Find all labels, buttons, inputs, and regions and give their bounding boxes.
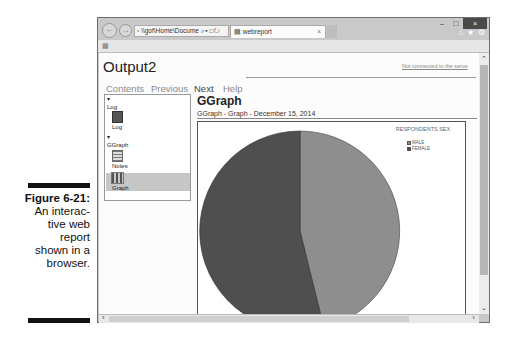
back-arrow-icon: ← xyxy=(106,25,114,34)
tree-item-notes[interactable]: Notes xyxy=(112,163,128,169)
tree-group-log[interactable]: Log xyxy=(107,104,117,110)
dropdown-icon[interactable]: ▾ xyxy=(205,27,208,34)
legend-title: RESPONDENTS SEX xyxy=(393,126,453,132)
tab-close-icon[interactable]: × xyxy=(317,26,321,38)
legend-swatch xyxy=(407,141,411,145)
log-icon[interactable] xyxy=(112,111,123,123)
browser-window: – □ × ← → ▫ \\gof\Home\Docume ⌕▾ □↻ ▤ we… xyxy=(97,17,490,323)
nav-contents[interactable]: Contents xyxy=(106,83,144,94)
minimize-button[interactable]: – xyxy=(435,18,449,29)
heading-divider xyxy=(197,118,477,119)
favorites-bar: ▩ xyxy=(98,40,489,53)
scroll-right-icon[interactable]: › xyxy=(472,313,475,322)
caption-rule-bottom xyxy=(28,318,90,323)
legend-item-male: MALE xyxy=(407,140,424,145)
caption-line: shown in a xyxy=(35,244,90,256)
page-viewport: Output2 Not connected to the serve Conte… xyxy=(99,53,479,314)
figure-caption: Figure 6-21: An interac- tive web report… xyxy=(10,192,90,270)
refresh-icon[interactable]: ↻ xyxy=(214,27,219,34)
tree-group-ggraph[interactable]: GGraph xyxy=(107,142,128,148)
caption-line: tive web xyxy=(48,218,90,230)
figure-number: Figure 6-21: xyxy=(10,192,90,205)
star-icon[interactable]: ★ xyxy=(467,28,474,37)
nav-previous[interactable]: Previous xyxy=(151,83,188,94)
title-bar: – □ × ← → ▫ \\gof\Home\Docume ⌕▾ □↻ ▤ we… xyxy=(98,18,489,40)
caption-rule-top xyxy=(28,183,90,188)
home-icon[interactable]: ⌂ xyxy=(458,28,463,37)
browser-toolbar: ⌂ ★ ⚙ xyxy=(458,28,485,37)
back-button[interactable]: ← xyxy=(102,23,117,38)
tab-webreport[interactable]: ▤ webreport × xyxy=(230,25,326,38)
nav-next[interactable]: Next xyxy=(194,83,214,94)
caption-line: report xyxy=(60,231,90,243)
outline-pane: ▾ Log Log ▾ GGraph Notes Graph xyxy=(104,94,191,201)
scroll-up-icon[interactable]: ⌃ xyxy=(479,55,489,63)
new-tab-button[interactable] xyxy=(327,25,337,38)
forward-arrow-icon: → xyxy=(122,26,130,35)
legend-label: MALE xyxy=(412,140,424,145)
pie-chart: RESPONDENTS SEX MALE FEMALE xyxy=(197,121,466,314)
address-bar[interactable]: ▫ \\gof\Home\Docume ⌕▾ □↻ xyxy=(134,25,229,37)
tree-item-log[interactable]: Log xyxy=(112,124,122,130)
output-subtitle: GGraph - Graph - December 15, 2014 xyxy=(197,110,315,117)
collapse-toggle[interactable]: ▾ xyxy=(107,95,110,102)
scroll-left-icon[interactable]: ‹ xyxy=(102,313,105,322)
gear-icon[interactable]: ⚙ xyxy=(478,28,485,37)
legend-swatch xyxy=(407,147,411,151)
horizontal-scrollbar[interactable]: ‹ › xyxy=(99,314,479,323)
vertical-scroll-thumb[interactable] xyxy=(480,65,488,275)
connection-status-link[interactable]: Not connected to the serve xyxy=(402,63,468,69)
tab-title: webreport xyxy=(243,28,272,35)
nav-help[interactable]: Help xyxy=(223,83,243,94)
pie-slice-male[interactable] xyxy=(300,131,400,314)
address-text: \\gof\Home\Docume xyxy=(141,27,199,34)
forward-button[interactable]: → xyxy=(119,24,132,37)
page-title: Output2 xyxy=(103,58,156,75)
vertical-scrollbar[interactable]: ⌃ ⌄ xyxy=(479,53,489,314)
graph-icon[interactable] xyxy=(111,172,124,184)
caption-line: browser. xyxy=(47,257,90,269)
horizontal-scroll-thumb[interactable] xyxy=(109,316,409,322)
tree-item-graph[interactable]: Graph xyxy=(112,185,129,191)
output-heading: GGraph xyxy=(197,94,242,108)
tab-page-icon: ▤ xyxy=(234,28,241,35)
notes-icon[interactable] xyxy=(112,150,123,162)
header-divider xyxy=(246,77,476,78)
favorites-icon[interactable]: ▩ xyxy=(102,42,109,49)
scroll-down-icon[interactable]: ⌄ xyxy=(479,304,489,312)
caption-line: An interac- xyxy=(34,205,90,217)
legend-label: FEMALE xyxy=(412,146,430,151)
legend-item-female: FEMALE xyxy=(407,146,430,151)
collapse-toggle[interactable]: ▾ xyxy=(107,133,110,140)
page-icon: ▫ xyxy=(137,27,139,34)
